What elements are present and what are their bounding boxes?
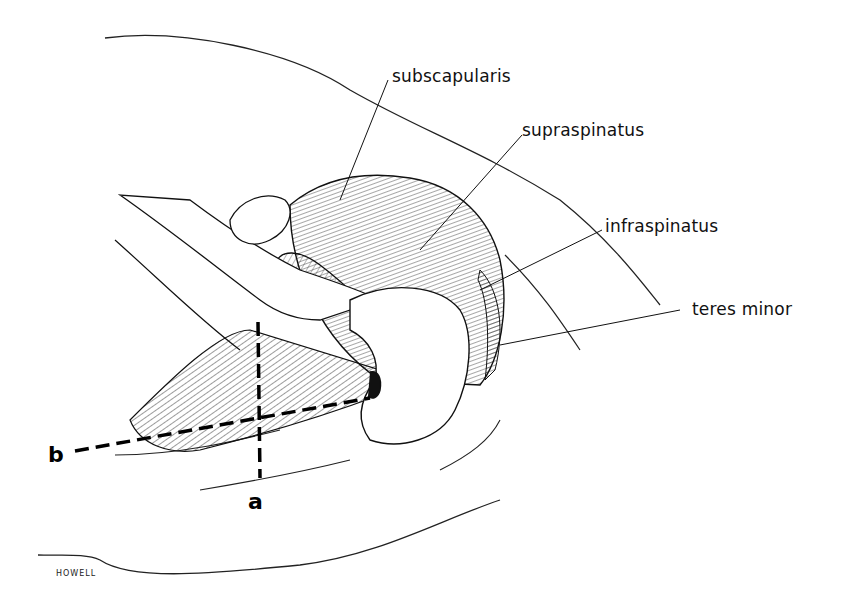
axis-label-a: a (248, 489, 263, 514)
label-infraspinatus: infraspinatus (605, 216, 718, 236)
artist-signature: HOWELL (56, 569, 96, 578)
glenoid-edge (368, 372, 381, 398)
body-outline-bottom (38, 500, 500, 574)
label-teres-minor: teres minor (692, 299, 792, 319)
acromion (230, 196, 290, 244)
leader-teres-minor (500, 310, 680, 345)
label-subscapularis: subscapularis (392, 66, 511, 86)
body-outline-right (505, 255, 580, 350)
axis-label-b: b (48, 442, 64, 467)
label-supraspinatus: supraspinatus (522, 120, 644, 140)
